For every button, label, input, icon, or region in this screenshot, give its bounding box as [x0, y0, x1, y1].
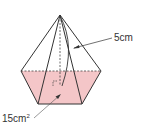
base-face — [21, 71, 101, 104]
lateral-edge-left — [21, 15, 60, 71]
pyramid-diagram — [0, 0, 144, 128]
slant-height-arrowhead — [73, 45, 80, 49]
slant-height-label: 5cm — [114, 33, 133, 43]
slant-height-leader — [74, 38, 112, 48]
lateral-edge-right — [60, 15, 101, 71]
base-area-value: 15cm — [2, 113, 26, 124]
base-area-exponent: 2 — [26, 113, 29, 119]
base-area-label: 15cm2 — [2, 114, 30, 124]
